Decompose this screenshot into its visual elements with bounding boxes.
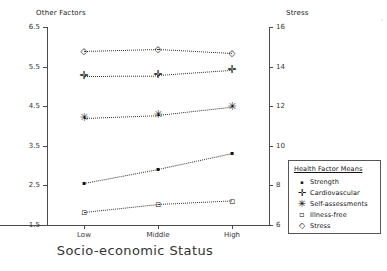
series-line-segment [84,75,158,76]
data-point-marker: ✛ [226,64,238,76]
right-tick-label: 14 [276,63,296,71]
asterisk-icon: ✳ [294,198,310,209]
series-line-segment [158,201,232,206]
diamond-icon: ◇ [294,221,310,230]
x-tick-label: Low [59,231,109,239]
left-tick-label: 1.5 [20,221,40,229]
data-point-marker: ✳ [226,101,238,113]
x-tick-label: Middle [133,231,183,239]
right-axis-spine [269,27,270,226]
left-tick-label: 5.5 [20,63,40,71]
legend-item-label: Illness-free [310,211,347,219]
series-line-segment [158,153,232,170]
legend-item-cardiovascular: ✛Cardiovascular [294,187,376,198]
series-line-segment [158,107,232,116]
data-point-marker: ◇ [78,45,90,57]
x-tick-mark [158,225,159,229]
data-point-marker: ✳ [78,112,90,124]
dot-icon: ▪ [294,179,310,185]
legend-item-label: Self-assessments [310,200,368,208]
left-axis-title: Other Factors [36,9,86,17]
right-axis-title: Stress [286,9,309,17]
data-point-marker: ✛ [152,69,164,81]
chart-figure: Other Factors Stress 1.52.53.54.55.56.5 … [0,0,387,271]
x-tick-label: High [207,231,257,239]
corner-mark: · [381,16,383,23]
left-tick-label: 2.5 [20,181,40,189]
legend-item-illness-free: ▫Illness-free [294,209,376,220]
series-line-segment [84,204,158,213]
x-axis-title: Socio-economic Status [0,243,270,258]
right-tick-mark [269,146,273,147]
series-line-segment [84,115,158,119]
legend-item-stress: ◇Stress [294,220,376,231]
legend-item-label: Strength [310,178,339,186]
right-tick-label: 16 [276,23,296,31]
data-point-marker: ▪ [78,177,90,189]
left-tick-label: 4.5 [20,102,40,110]
right-tick-mark [269,67,273,68]
data-point-marker: ▫ [152,198,164,210]
plus-icon: ✛ [294,187,310,198]
left-tick-mark [43,225,47,226]
legend: Health Factor Means ▪Strength✛Cardiovasc… [288,160,381,234]
legend-item-self-assessments: ✳Self-assessments [294,198,376,209]
series-line-segment [84,169,158,184]
left-tick-label: 3.5 [20,142,40,150]
legend-item-strength: ▪Strength [294,176,376,187]
data-point-marker: ◇ [226,47,238,59]
data-point-marker: ▪ [152,163,164,175]
x-axis-spine [0,225,270,226]
plot-area: ▪▪▪✛✛✛✳✳✳▫▫▫◇◇◇ [47,27,269,225]
legend-title: Health Factor Means [294,165,376,173]
data-point-marker: ▫ [78,206,90,218]
data-point-marker: ✛ [78,70,90,82]
right-tick-mark [269,225,273,226]
right-tick-mark [269,27,273,28]
x-tick-mark [84,225,85,229]
series-line-segment [158,49,232,54]
data-point-marker: ✳ [152,109,164,121]
square-icon: ▫ [294,210,310,219]
series-line-segment [158,70,232,76]
legend-rows: ▪Strength✛Cardiovascular✳Self-assessment… [294,176,376,231]
series-line-segment [84,49,158,52]
data-point-marker: ▫ [226,195,238,207]
right-tick-mark [269,106,273,107]
left-tick-label: 6.5 [20,23,40,31]
right-tick-label: 12 [276,102,296,110]
data-point-marker: ▪ [226,147,238,159]
legend-item-label: Stress [310,222,331,230]
data-point-marker: ◇ [152,43,164,55]
x-tick-mark [232,225,233,229]
right-tick-label: 10 [276,142,296,150]
right-tick-mark [269,185,273,186]
legend-item-label: Cardiovascular [310,189,360,197]
